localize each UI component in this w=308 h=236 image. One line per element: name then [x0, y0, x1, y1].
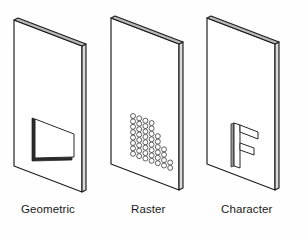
raster-dot: [137, 154, 142, 159]
raster-dot: [155, 145, 160, 150]
raster-dot: [149, 158, 154, 163]
panel-character-edge: [275, 42, 279, 190]
raster-dot: [143, 156, 148, 161]
raster-dot: [131, 130, 136, 135]
character-letter-f-stem: [234, 123, 240, 168]
raster-dot: [137, 137, 142, 142]
raster-dot: [162, 158, 167, 163]
panel-geometric-edge: [82, 44, 86, 192]
raster-dot: [143, 124, 148, 129]
panel-raster: [111, 16, 183, 190]
figure-root: Geometric Raster Character: [0, 0, 308, 236]
raster-dot: [137, 121, 142, 126]
panel-geometric: [14, 18, 86, 192]
raster-dot: [143, 140, 148, 145]
raster-dot: [155, 155, 160, 160]
raster-dot: [143, 134, 148, 139]
raster-dot: [162, 152, 167, 157]
raster-dot: [143, 145, 148, 150]
raster-dot: [143, 129, 148, 134]
raster-dot: [149, 126, 154, 131]
panel-character: [207, 16, 279, 190]
raster-dot: [168, 165, 173, 170]
raster-dot: [162, 163, 167, 168]
raster-dot: [149, 131, 154, 136]
raster-dot: [143, 151, 148, 156]
raster-dot: [149, 153, 154, 158]
raster-dot: [137, 127, 142, 132]
raster-dot: [168, 160, 173, 165]
raster-dot: [162, 147, 167, 152]
raster-dot: [155, 161, 160, 166]
raster-dot: [155, 150, 160, 155]
raster-dot: [137, 116, 142, 121]
raster-dot: [131, 114, 136, 119]
panel-raster-edge: [179, 42, 183, 190]
raster-dot: [131, 141, 136, 146]
raster-dot: [137, 143, 142, 148]
raster-dot: [131, 119, 136, 124]
raster-dot: [137, 148, 142, 153]
raster-dot: [143, 118, 148, 123]
raster-dot: [149, 137, 154, 142]
raster-dot: [149, 121, 154, 126]
raster-dot: [149, 148, 154, 153]
raster-dot: [137, 132, 142, 137]
raster-dot: [131, 124, 136, 129]
raster-dot: [149, 142, 154, 147]
panel-geometric-face: [14, 20, 82, 192]
panel-character-face: [207, 18, 275, 190]
raster-dot: [155, 134, 160, 139]
diagram-canvas: [0, 0, 308, 236]
raster-dot: [131, 151, 136, 156]
raster-dot: [155, 139, 160, 144]
raster-dot: [131, 146, 136, 151]
raster-dot: [131, 135, 136, 140]
